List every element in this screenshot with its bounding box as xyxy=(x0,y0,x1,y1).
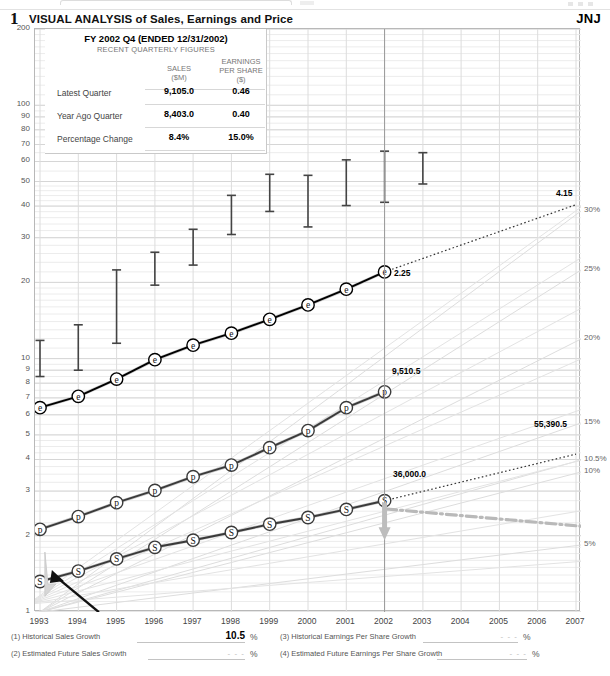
svg-text:S: S xyxy=(344,505,349,515)
y-axis-left-tick-200: 200 xyxy=(4,24,30,32)
x-axis-year-1997: 1997 xyxy=(172,616,212,626)
svg-text:p: p xyxy=(191,472,196,482)
column-header-sales-unit: ($M) xyxy=(149,73,209,82)
browser-tab-ghost[interactable] xyxy=(60,0,292,5)
recent-quarterly-figures-panel: FY 2002 Q4 (ENDED 12/31/2002) RECENT QUA… xyxy=(45,29,267,154)
svg-text:S: S xyxy=(152,543,157,553)
footer-label-2: (2) Estimated Future Sales Growth xyxy=(11,649,126,658)
footer-value-1[interactable]: 10.5 xyxy=(165,630,245,641)
x-axis-year-2000: 2000 xyxy=(287,616,327,626)
y-axis-right-tick-20: 20% xyxy=(584,334,610,342)
y-axis-right-tick-10: 10% xyxy=(584,467,610,475)
footer-unit-3: % xyxy=(523,632,531,642)
quarterly-eps-2: 15.0% xyxy=(211,132,271,142)
eps-end-label: 2.25 xyxy=(394,268,411,278)
svg-text:S: S xyxy=(37,577,42,587)
quarterly-row-label-1: Year Ago Quarter xyxy=(57,111,145,121)
footer-value-2[interactable]: - - - xyxy=(165,649,245,658)
y-axis-left-tick-70: 70 xyxy=(4,140,30,148)
footer-label-3: (3) Historical Earnings Per Share Growth xyxy=(280,632,416,641)
svg-text:S: S xyxy=(229,528,234,538)
x-axis-year-1998: 1998 xyxy=(210,616,250,626)
column-header-eps-text: EARNINGS xyxy=(211,57,271,66)
quarterly-rule-0 xyxy=(145,104,265,105)
quarterly-panel-subtitle: RECENT QUARTERLY FIGURES xyxy=(45,45,267,54)
svg-text:e: e xyxy=(229,329,233,339)
y-axis-left-tick-1: 1 xyxy=(4,607,30,615)
column-header-sales: SALES ($M) xyxy=(149,64,209,82)
y-axis-left-tick-4: 4 xyxy=(4,454,30,462)
footer-value-4[interactable]: - - - xyxy=(450,649,527,658)
svg-text:S: S xyxy=(267,520,272,530)
x-axis-year-2007: 2007 xyxy=(555,616,595,626)
y-axis-left-tick-5: 5 xyxy=(4,430,30,438)
sales-end-label: 36,000.0 xyxy=(393,469,426,479)
footer-value-3[interactable]: - - - xyxy=(438,632,518,641)
svg-text:e: e xyxy=(38,403,42,413)
svg-text:p: p xyxy=(76,512,81,522)
window-control-maximize-icon[interactable] xyxy=(578,2,583,6)
y-axis-left-tick-10: 10 xyxy=(4,354,30,362)
quarterly-eps-1: 0.40 xyxy=(211,109,271,119)
footer-input-line-3[interactable] xyxy=(423,642,518,643)
pretax-profit-end-label: 9,510.5 xyxy=(392,366,420,376)
y-axis-left-tick-100: 100 xyxy=(4,100,30,108)
y-axis-right-tick-25: 25% xyxy=(584,265,610,273)
svg-text:e: e xyxy=(268,315,272,325)
y-axis-left-tick-7: 7 xyxy=(4,393,30,401)
y-axis-left-tick-40: 40 xyxy=(4,201,30,209)
column-header-eps: EARNINGS PER SHARE ($) xyxy=(211,57,271,84)
footer-input-line-2[interactable] xyxy=(148,659,245,660)
quarterly-row-label-2: Percentage Change xyxy=(57,134,145,144)
growth-rate-footer: (1) Historical Sales Growth 10.5 % (2) E… xyxy=(0,630,610,676)
y-axis-left-tick-2: 2 xyxy=(4,531,30,539)
footer-input-line-1[interactable] xyxy=(137,642,245,643)
svg-text:p: p xyxy=(114,498,119,508)
y-axis-left-tick-20: 20 xyxy=(4,277,30,285)
quarterly-sales-1: 8,403.0 xyxy=(149,109,209,119)
y-axis-left-tick-30: 30 xyxy=(4,233,30,241)
window-control-close-icon[interactable] xyxy=(588,2,593,6)
footer-input-line-4[interactable] xyxy=(437,659,527,660)
svg-text:p: p xyxy=(229,461,234,471)
footer-label-1: (1) Historical Sales Growth xyxy=(11,632,100,641)
ticker-symbol: JNJ xyxy=(576,10,601,28)
quarterly-sales-0: 9,105.0 xyxy=(149,86,209,96)
x-axis-year-2001: 2001 xyxy=(325,616,365,626)
x-axis-year-1996: 1996 xyxy=(134,616,174,626)
sales-projection-label: 55,390.5 xyxy=(534,419,567,429)
quarterly-eps-0: 0.46 xyxy=(211,86,271,96)
page-header: 1 VISUAL ANALYSIS of Sales, Earnings and… xyxy=(0,9,610,28)
column-header-eps-unit: ($) xyxy=(211,75,271,84)
projection-lines xyxy=(385,205,576,501)
svg-text:p: p xyxy=(153,486,158,496)
svg-text:e: e xyxy=(76,392,80,402)
y-axis-left-tick-8: 8 xyxy=(4,378,30,386)
footer-unit-1: % xyxy=(250,632,258,642)
quarterly-rule-2 xyxy=(145,150,265,151)
svg-text:S: S xyxy=(76,567,81,577)
y-axis-right-tick-10-5: 10.5% xyxy=(584,455,610,463)
eps-projection-label: 4.15 xyxy=(556,188,573,198)
svg-text:e: e xyxy=(153,355,157,365)
column-header-eps-text2: PER SHARE xyxy=(211,66,271,75)
y-axis-left-tick-3: 3 xyxy=(4,486,30,494)
footer-label-4: (4) Estimated Future Earnings Per Share … xyxy=(280,649,442,658)
quarterly-row-label-0: Latest Quarter xyxy=(57,88,145,98)
x-axis-year-2006: 2006 xyxy=(517,616,557,626)
y-axis-left-tick-9: 9 xyxy=(4,365,30,373)
svg-text:S: S xyxy=(114,554,119,564)
x-axis-year-1999: 1999 xyxy=(249,616,289,626)
window-control-minimize-icon[interactable] xyxy=(568,2,573,6)
svg-text:S: S xyxy=(305,513,310,523)
svg-text:e: e xyxy=(306,300,310,310)
x-axis-year-2004: 2004 xyxy=(440,616,480,626)
quarterly-sales-2: 8.4% xyxy=(149,132,209,142)
quarterly-rule-1 xyxy=(145,127,265,128)
y-axis-left-tick-6: 6 xyxy=(4,410,30,418)
svg-text:p: p xyxy=(344,403,349,413)
svg-text:e: e xyxy=(114,375,118,385)
y-axis-left-tick-80: 80 xyxy=(4,125,30,133)
svg-text:p: p xyxy=(38,525,43,535)
svg-text:p: p xyxy=(267,443,272,453)
